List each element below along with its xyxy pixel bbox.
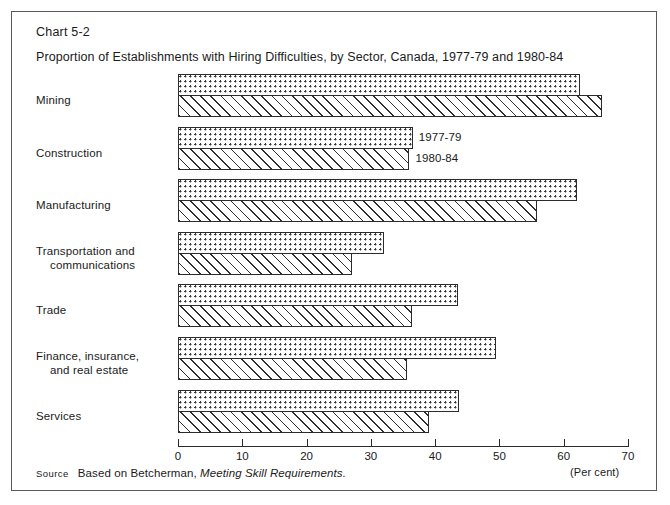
category-label-line: communications [36, 258, 135, 272]
x-axis-tick [178, 439, 179, 447]
bar-1980-84-construction [178, 148, 409, 170]
x-axis-tick [564, 439, 565, 447]
category-label-line: Construction [36, 146, 102, 160]
bar-1980-84-mining [178, 95, 602, 117]
bar-1980-84-services [178, 411, 429, 433]
legend-label-1980-84: 1980-84 [415, 152, 458, 164]
category-label: Mining [36, 93, 71, 107]
source-text: Based on Betcherman, [78, 467, 197, 479]
bar-1977-79-trade [178, 284, 458, 306]
x-axis-tick [242, 439, 243, 447]
plot-area: (Per cent) MiningConstructionManufacturi… [12, 12, 658, 492]
bar-1977-79-finance [178, 337, 496, 359]
category-label: Trade [36, 303, 66, 317]
category-label: Construction [36, 146, 102, 160]
category-label-line: Transportation and [36, 244, 135, 258]
category-label-line: Manufacturing [36, 198, 111, 212]
category-label: Transportation andcommunications [36, 244, 135, 272]
x-axis-tick-label: 20 [287, 450, 327, 462]
x-axis-tick [307, 439, 308, 447]
x-axis-tick-label: 0 [158, 450, 198, 462]
bar-1977-79-transportation [178, 232, 384, 254]
bar-1980-84-manufacturing [178, 200, 537, 222]
source-note: SourceBased on Betcherman, Meeting Skill… [36, 467, 346, 479]
bar-1977-79-services [178, 390, 459, 412]
source-label: Source [36, 468, 69, 479]
x-axis-tick-label: 40 [415, 450, 455, 462]
chart-frame: Chart 5-2 Proportion of Establishments w… [11, 11, 657, 491]
x-axis-tick [371, 439, 372, 447]
legend-label-1977-79: 1977-79 [419, 131, 462, 143]
category-label-line: Mining [36, 93, 71, 107]
x-axis-tick-label: 60 [544, 450, 584, 462]
x-axis-tick-label: 70 [608, 450, 648, 462]
x-axis-tick [435, 439, 436, 447]
category-label: Finance, insurance,and real estate [36, 349, 139, 377]
category-label-line: Trade [36, 303, 66, 317]
category-label-line: Services [36, 409, 81, 423]
x-axis-unit-label: (Per cent) [570, 466, 619, 478]
bar-1980-84-transportation [178, 253, 352, 275]
x-axis-tick-label: 50 [479, 450, 519, 462]
bar-1977-79-mining [178, 74, 580, 96]
category-label-line: Finance, insurance, [36, 349, 139, 363]
category-label: Manufacturing [36, 198, 111, 212]
category-label: Services [36, 409, 81, 423]
x-axis-tick-label: 30 [351, 450, 391, 462]
bar-1980-84-trade [178, 305, 412, 327]
x-axis-line [178, 446, 629, 447]
x-axis-tick [499, 439, 500, 447]
x-axis-tick-label: 10 [222, 450, 262, 462]
source-reference: Meeting Skill Requirements. [200, 467, 346, 479]
bar-1980-84-finance [178, 358, 407, 380]
category-label-line: and real estate [36, 363, 139, 377]
bar-1977-79-construction [178, 127, 413, 149]
bar-1977-79-manufacturing [178, 179, 577, 201]
x-axis-tick [628, 439, 629, 447]
